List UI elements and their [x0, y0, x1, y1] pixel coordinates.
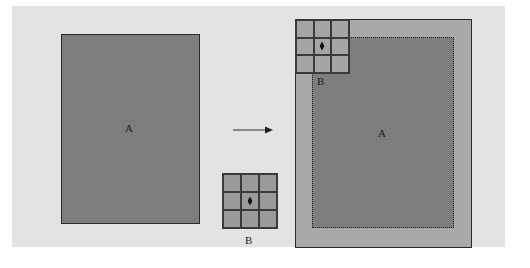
- kernel-b-placed-grid: [295, 19, 350, 74]
- kernel-b-label: B: [245, 235, 252, 246]
- placed-kernel-b-label: B: [317, 76, 324, 87]
- arrow-right-icon: [233, 124, 273, 136]
- kernel-cell: [259, 210, 277, 228]
- kernel-center-cell: [241, 192, 259, 210]
- diamond-icon: [248, 197, 253, 206]
- kernel-cell: [331, 55, 349, 73]
- kernel-cell: [223, 174, 241, 192]
- rect-a-label: A: [125, 123, 133, 134]
- kernel-cell: [241, 210, 259, 228]
- kernel-cell: [296, 20, 314, 38]
- kernel-cell: [314, 20, 332, 38]
- kernel-cell: [331, 38, 349, 56]
- kernel-cell: [259, 192, 277, 210]
- kernel-cell: [223, 192, 241, 210]
- kernel-center-cell: [314, 38, 332, 56]
- inner-rect-a-label: A: [378, 128, 386, 139]
- kernel-cell: [259, 174, 277, 192]
- kernel-cell: [331, 20, 349, 38]
- kernel-cell: [314, 55, 332, 73]
- kernel-cell: [296, 55, 314, 73]
- kernel-b-grid: [222, 173, 278, 229]
- kernel-cell: [296, 38, 314, 56]
- kernel-cell: [223, 210, 241, 228]
- diamond-icon: [320, 42, 325, 51]
- kernel-cell: [241, 174, 259, 192]
